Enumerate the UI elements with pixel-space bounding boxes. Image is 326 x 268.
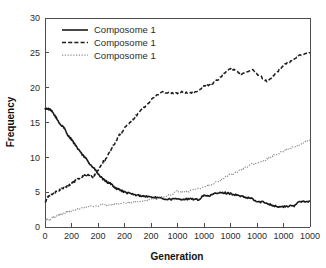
y-axis-title: Frequency [5,96,16,147]
x-tick-label: 200 [143,231,158,241]
x-tick-label: 200 [64,231,79,241]
x-tick-label: 200 [90,231,105,241]
x-tick-label: 0 [42,231,47,241]
legend-label-1: Composome 1 [94,24,156,35]
y-tick-label: 20 [30,83,40,93]
y-tick-label: 0 [35,222,40,232]
y-tick-label: 15 [30,118,40,128]
chart-figure: 051015202530 020020020020010001000100010… [0,0,326,268]
chart-canvas: 051015202530 020020020020010001000100010… [0,0,326,268]
x-tick-label: 1000 [194,231,214,241]
y-tick-label: 5 [35,187,40,197]
x-axis-ticks: 0200200200200100010001000100010001000 [42,223,320,241]
y-tick-label: 25 [30,48,40,58]
y-tick-label: 10 [30,153,40,163]
x-tick-label: 1000 [273,231,293,241]
series-line-3 [45,140,310,221]
x-tick-label: 1000 [300,231,320,241]
legend-label-2: Composome 1 [94,37,156,48]
plot-axes [45,18,310,227]
x-tick-label: 1000 [247,231,267,241]
y-tick-label: 30 [30,13,40,23]
chart-legend: Composome 1Composome 1Composome 1 [62,24,156,60]
x-tick-label: 200 [117,231,132,241]
x-tick-label: 1000 [220,231,240,241]
series-line-2 [45,53,310,203]
x-tick-label: 1000 [167,231,187,241]
series-group [45,53,310,221]
legend-label-3: Composome 1 [94,50,156,61]
x-axis-title: Generation [151,251,204,262]
